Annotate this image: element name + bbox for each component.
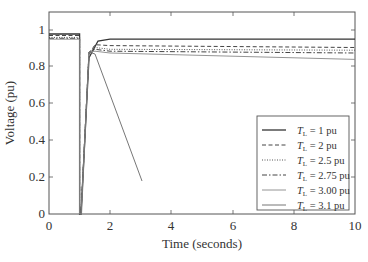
series-tl-3.1 <box>81 52 143 214</box>
y-tick-0.2: 0.2 <box>29 169 45 184</box>
y-axis-label: Voltage (pu) <box>2 81 17 145</box>
y-tick-0.4: 0.4 <box>29 132 46 147</box>
y-tick-1: 1 <box>39 22 46 37</box>
x-tick-4: 4 <box>168 218 175 233</box>
x-tick-8: 8 <box>291 218 298 233</box>
y-tick-0: 0 <box>39 206 46 221</box>
voltage-chart: 0 2 4 6 8 10 0 0.2 0.4 0.6 0.8 1 Time (s… <box>0 0 368 262</box>
y-tick-0.6: 0.6 <box>29 95 46 110</box>
x-tick-6: 6 <box>230 218 237 233</box>
y-tick-0.8: 0.8 <box>29 58 45 73</box>
x-tick-2: 2 <box>107 218 114 233</box>
x-axis-label: Time (seconds) <box>162 236 242 251</box>
x-tick-10: 10 <box>349 218 362 233</box>
legend: TL = 1 pu TL = 2 pu TL = 2.5 pu TL = 2.7… <box>257 116 351 213</box>
x-tick-0: 0 <box>46 218 53 233</box>
